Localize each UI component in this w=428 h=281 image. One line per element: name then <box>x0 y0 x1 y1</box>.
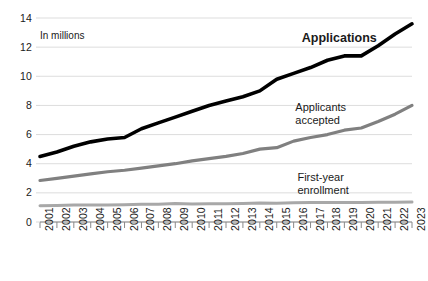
x-tick-label: 2015 <box>281 207 292 231</box>
series-annotation-1: Applicants accepted <box>295 101 346 127</box>
x-tick-label: 2011 <box>213 208 224 231</box>
series-line-2 <box>40 202 412 206</box>
y-tick-label: 2 <box>10 187 32 198</box>
x-tick-label: 2020 <box>365 207 376 231</box>
y-tick-label: 8 <box>10 100 32 111</box>
x-tick-label: 2009 <box>179 207 190 231</box>
x-tick-label: 2018 <box>331 207 342 231</box>
y-tick-label: 14 <box>10 13 32 24</box>
x-tick-label: 2007 <box>145 207 156 231</box>
series-annotation-2: First-year enrollment <box>297 171 348 197</box>
y-tick-label: 4 <box>10 158 32 169</box>
x-tick-label: 2003 <box>78 207 89 231</box>
x-tick-label: 2012 <box>230 207 241 231</box>
x-tick-label: 2010 <box>196 207 207 231</box>
x-tick-label: 2006 <box>129 207 140 231</box>
x-tick-label: 2022 <box>399 207 410 231</box>
x-tick-label: 2002 <box>61 207 72 231</box>
series-line-1 <box>40 105 412 180</box>
y-tick-label: 0 <box>10 217 32 228</box>
x-tick-label: 2008 <box>162 207 173 231</box>
x-tick-label: 2014 <box>264 207 275 231</box>
y-tick-label: 6 <box>10 129 32 140</box>
series-annotation-0: Applications <box>302 31 377 46</box>
y-tick-label: 12 <box>10 42 32 53</box>
x-tick-label: 2001 <box>44 207 55 231</box>
x-tick-label: 2023 <box>416 207 427 231</box>
line-chart: In millions 02468101214 2001200220032004… <box>0 0 428 281</box>
x-tick-label: 2017 <box>315 207 326 231</box>
y-tick-label: 10 <box>10 71 32 82</box>
x-tick-label: 2021 <box>382 207 393 231</box>
x-tick-label: 2013 <box>247 207 258 231</box>
unit-note: In millions <box>40 30 84 41</box>
x-tick-label: 2016 <box>298 207 309 231</box>
x-tick-label: 2019 <box>348 207 359 231</box>
x-tick-label: 2005 <box>112 207 123 231</box>
x-tick-label: 2004 <box>95 207 106 231</box>
